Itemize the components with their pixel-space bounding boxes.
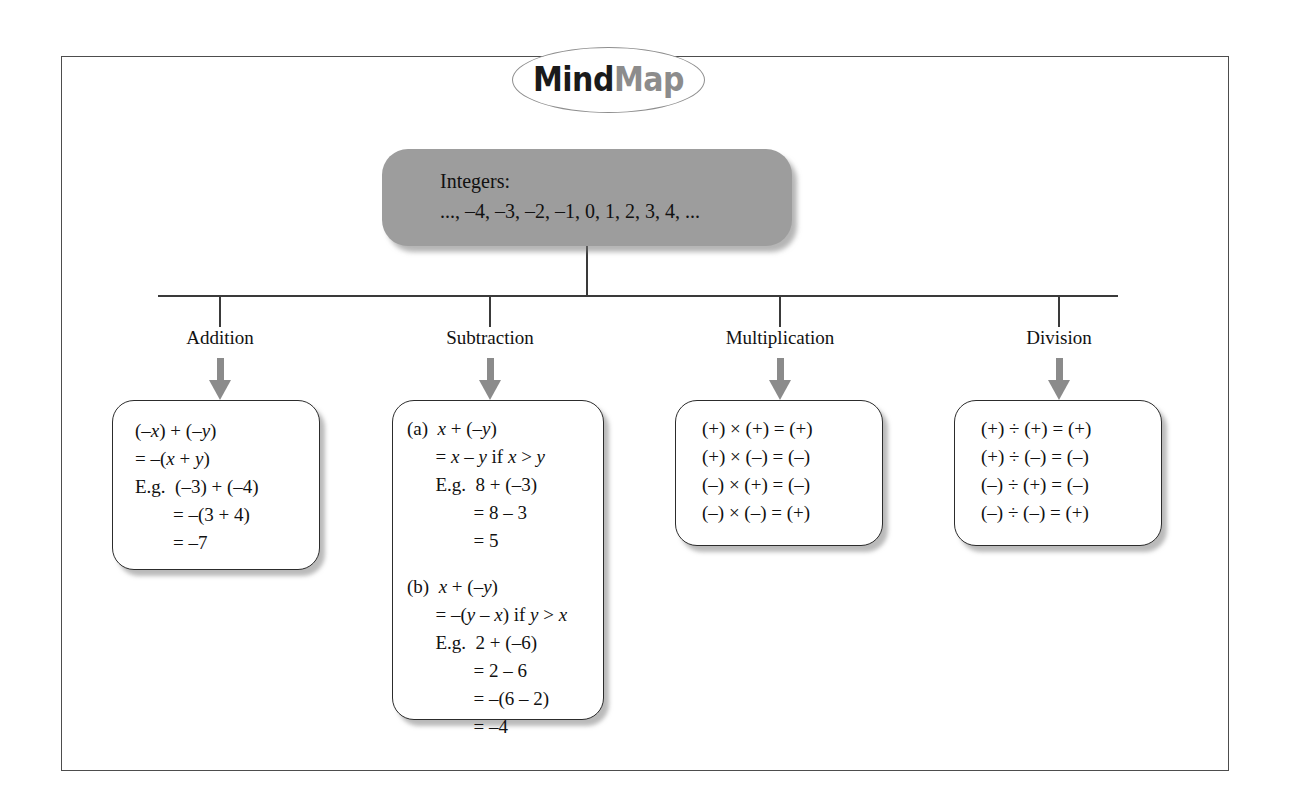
- branch-label-subtraction: Subtraction: [442, 327, 538, 349]
- branch-label-addition: Addition: [182, 327, 258, 349]
- arrow-head: [479, 380, 501, 400]
- rule-box-subtraction-part-b: (b) x + (–y) = –(y – x) if y > x E.g. 2 …: [407, 573, 567, 741]
- mindmap-logo-text: MindMap: [533, 63, 684, 97]
- root-node-title: Integers:: [440, 166, 700, 196]
- arrow-head: [769, 380, 791, 400]
- rule-box-multiplication: (+) × (+) = (+)(+) × (–) = (–)(–) × (+) …: [675, 400, 883, 546]
- rule-box-multiplication-text: (+) × (+) = (+)(+) × (–) = (–)(–) × (+) …: [702, 415, 813, 527]
- rule-box-addition-text: (–x) + (–y)= –(x + y)E.g. (–3) + (–4) = …: [135, 417, 259, 557]
- root-node-content: Integers: ..., –4, –3, –2, –1, 0, 1, 2, …: [440, 166, 700, 226]
- mindmap-logo: MindMap: [512, 47, 705, 113]
- arrow-shaft: [1056, 358, 1063, 382]
- arrow-shaft: [777, 358, 784, 382]
- branch-label-multiplication: Multiplication: [722, 327, 839, 349]
- arrow-down-icon-division: [1047, 358, 1071, 400]
- arrow-down-icon-addition: [208, 358, 232, 400]
- arrow-down-icon-multiplication: [768, 358, 792, 400]
- rule-box-subtraction-part-a: (a) x + (–y) = x – y if x > y E.g. 8 + (…: [407, 415, 545, 555]
- root-node-integers: Integers: ..., –4, –3, –2, –1, 0, 1, 2, …: [382, 149, 792, 246]
- branch-label-division: Division: [1022, 327, 1095, 349]
- arrow-shaft: [487, 358, 494, 382]
- rule-box-addition: (–x) + (–y)= –(x + y)E.g. (–3) + (–4) = …: [112, 400, 320, 570]
- root-node-sequence: ..., –4, –3, –2, –1, 0, 1, 2, 3, 4, ...: [440, 196, 700, 226]
- arrow-down-icon-subtraction: [478, 358, 502, 400]
- arrow-shaft: [217, 358, 224, 382]
- rule-box-division: (+) ÷ (+) = (+)(+) ÷ (–) = (–)(–) ÷ (+) …: [954, 400, 1162, 546]
- arrow-head: [1048, 380, 1070, 400]
- logo-word-mind: Mind: [533, 60, 614, 99]
- rule-box-subtraction: (a) x + (–y) = x – y if x > y E.g. 8 + (…: [392, 400, 604, 720]
- logo-word-map: Map: [614, 60, 684, 99]
- connector-horizontal-bar: [158, 295, 1118, 297]
- rule-box-division-text: (+) ÷ (+) = (+)(+) ÷ (–) = (–)(–) ÷ (+) …: [981, 415, 1091, 527]
- arrow-head: [209, 380, 231, 400]
- connector-stem-root: [586, 246, 588, 296]
